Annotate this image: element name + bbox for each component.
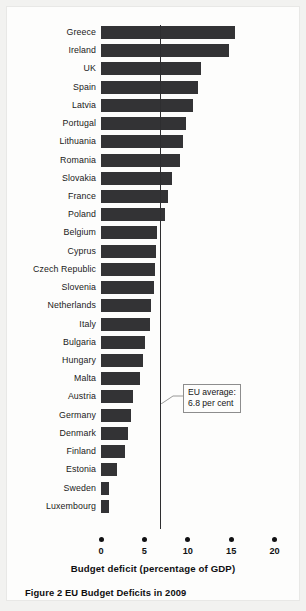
bar-latvia (101, 99, 193, 112)
bar-romania (101, 154, 180, 167)
figure-caption: Figure 2 EU Budget Deficits in 2009 (25, 587, 186, 598)
bar-row: Greece (7, 26, 299, 40)
bar-label-germany: Germany (1, 408, 96, 422)
bar-row: Slovakia (7, 172, 299, 186)
bar-label-ireland: Ireland (1, 43, 96, 57)
x-tick-dot-15 (229, 537, 234, 542)
bar-row: Netherlands (7, 299, 299, 313)
bar-row: Latvia (7, 99, 299, 113)
x-tick-dot-10 (185, 537, 190, 542)
bar-row: Belgium (7, 226, 299, 240)
bar-row: Austria (7, 390, 299, 404)
bar-czech-republic (101, 263, 155, 276)
bar-label-sweden: Sweden (1, 481, 96, 495)
bar-denmark (101, 427, 128, 440)
bar-row: Luxembourg (7, 500, 299, 514)
x-tick-dot-0 (99, 537, 104, 542)
bar-luxembourg (101, 500, 109, 513)
x-tick-dot-5 (142, 537, 147, 542)
bar-row: Bulgaria (7, 336, 299, 350)
bar-label-portugal: Portugal (1, 116, 96, 130)
x-tick-label-5: 5 (142, 546, 147, 556)
x-tick-dot-20 (272, 537, 277, 542)
bar-row: Poland (7, 208, 299, 222)
bar-row: Spain (7, 81, 299, 95)
bar-row: Cyprus (7, 245, 299, 259)
bar-label-netherlands: Netherlands (1, 298, 96, 312)
bar-row: Romania (7, 154, 299, 168)
bar-italy (101, 318, 150, 331)
bar-label-denmark: Denmark (1, 426, 96, 440)
eu-average-callout: EU average: 6.8 per cent (183, 384, 241, 413)
bar-malta (101, 372, 140, 385)
bar-row: Slovenia (7, 281, 299, 295)
bar-finland (101, 445, 125, 458)
bar-ireland (101, 44, 229, 57)
bar-row: France (7, 190, 299, 204)
bar-label-czech-republic: Czech Republic (1, 262, 96, 276)
bar-label-malta: Malta (1, 371, 96, 385)
bar-label-slovenia: Slovenia (1, 280, 96, 294)
bar-france (101, 190, 168, 203)
bar-label-belgium: Belgium (1, 225, 96, 239)
bar-slovakia (101, 172, 172, 185)
bar-label-austria: Austria (1, 389, 96, 403)
bar-belgium (101, 226, 157, 239)
bar-row: Lithuania (7, 135, 299, 149)
bar-slovenia (101, 281, 154, 294)
bar-spain (101, 81, 198, 94)
bar-label-slovakia: Slovakia (1, 171, 96, 185)
bar-germany (101, 409, 131, 422)
bar-label-cyprus: Cyprus (1, 244, 96, 258)
bar-row: Denmark (7, 427, 299, 441)
bar-greece (101, 26, 235, 39)
bar-row: Hungary (7, 354, 299, 368)
bar-row: Germany (7, 409, 299, 423)
bar-label-finland: Finland (1, 444, 96, 458)
bar-chart: GreeceIrelandUKSpainLatviaPortugalLithua… (7, 7, 299, 537)
bar-label-romania: Romania (1, 153, 96, 167)
x-tick-label-20: 20 (269, 546, 279, 556)
bar-label-lithuania: Lithuania (1, 134, 96, 148)
bar-label-spain: Spain (1, 80, 96, 94)
bar-row: UK (7, 62, 299, 76)
bar-row: Ireland (7, 44, 299, 58)
bar-label-hungary: Hungary (1, 353, 96, 367)
bar-row: Italy (7, 318, 299, 332)
callout-line-1: EU average: (188, 387, 236, 398)
bar-label-italy: Italy (1, 317, 96, 331)
bar-label-latvia: Latvia (1, 98, 96, 112)
eu-average-reference-line (160, 25, 161, 529)
bar-label-bulgaria: Bulgaria (1, 335, 96, 349)
bar-sweden (101, 482, 109, 495)
bar-label-luxembourg: Luxembourg (1, 499, 96, 513)
bar-label-greece: Greece (1, 25, 96, 39)
bar-row: Finland (7, 445, 299, 459)
x-axis-title: Budget deficit (percentage of GDP) (7, 563, 299, 574)
bar-austria (101, 390, 133, 403)
bar-portugal (101, 117, 186, 130)
bar-row: Czech Republic (7, 263, 299, 277)
bar-label-france: France (1, 189, 96, 203)
bar-cyprus (101, 245, 156, 258)
bar-label-poland: Poland (1, 207, 96, 221)
x-tick-label-0: 0 (98, 546, 103, 556)
x-tick-label-15: 15 (226, 546, 236, 556)
figure-paper: GreeceIrelandUKSpainLatviaPortugalLithua… (7, 7, 299, 600)
bar-row: Estonia (7, 463, 299, 477)
figure-page: GreeceIrelandUKSpainLatviaPortugalLithua… (0, 0, 306, 611)
bar-poland (101, 208, 165, 221)
bar-row: Portugal (7, 117, 299, 131)
x-tick-label-10: 10 (183, 546, 193, 556)
bar-estonia (101, 463, 117, 476)
bar-label-estonia: Estonia (1, 462, 96, 476)
bar-hungary (101, 354, 143, 367)
bar-bulgaria (101, 336, 145, 349)
callout-line-2: 6.8 per cent (188, 398, 236, 409)
bar-row: Malta (7, 372, 299, 386)
bar-lithuania (101, 135, 183, 148)
bar-netherlands (101, 299, 151, 312)
bar-label-uk: UK (1, 61, 96, 75)
bar-uk (101, 62, 201, 75)
bar-row: Sweden (7, 482, 299, 496)
